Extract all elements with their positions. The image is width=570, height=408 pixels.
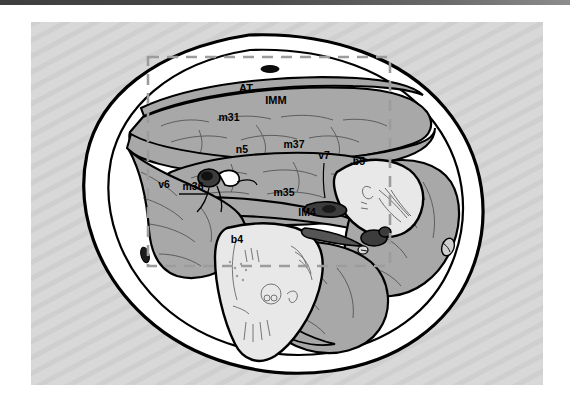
figure-root: AT IMM m31 n5 m37 v7 b5 v6 m36 m35 lM4 b… <box>0 0 570 408</box>
label-b5: b5 <box>353 155 365 167</box>
top-edge-bar <box>0 0 570 5</box>
figure-panel: AT IMM m31 n5 m37 v7 b5 v6 m36 m35 lM4 b… <box>31 22 543 385</box>
label-m36: m36 <box>182 180 203 192</box>
vessel-dorsal-oval <box>261 66 279 73</box>
label-v6: v6 <box>158 178 170 190</box>
label-b4: b4 <box>231 233 243 245</box>
label-lM4: lM4 <box>298 206 316 218</box>
cross-section-svg: AT IMM m31 n5 m37 v7 b5 v6 m36 m35 lM4 b… <box>31 22 543 385</box>
label-n5: n5 <box>236 143 248 155</box>
label-m31: m31 <box>218 111 239 123</box>
label-v7: v7 <box>318 149 330 161</box>
label-IMM: IMM <box>265 94 286 106</box>
label-m35: m35 <box>273 186 294 198</box>
label-m37: m37 <box>283 138 304 150</box>
label-AT: AT <box>239 82 253 94</box>
